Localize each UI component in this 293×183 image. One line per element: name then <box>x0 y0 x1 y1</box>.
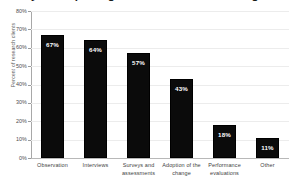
bar-value-label: 18% <box>214 131 235 138</box>
bar-value-label: 43% <box>171 85 192 92</box>
y-axis-tick-label: 0% <box>1 155 27 161</box>
chart-title: Ways of capturing the data when measurin… <box>14 0 279 3</box>
y-axis-tick-mark <box>28 121 31 122</box>
y-axis-tick-label: 60% <box>1 44 27 50</box>
bar-value-label: 11% <box>257 144 278 151</box>
bar-slot: 11% <box>246 11 289 158</box>
bar[interactable]: 11% <box>256 138 279 158</box>
bar-slot: 67% <box>31 11 74 158</box>
y-axis-tick-label: 30% <box>1 99 27 105</box>
y-axis-tick-mark <box>28 103 31 104</box>
y-axis-tick-label: 20% <box>1 118 27 124</box>
x-axis-category-labels: ObservationInterviewsSurveys and assessm… <box>31 162 289 183</box>
bar[interactable]: 67% <box>41 35 64 158</box>
y-axis-tick-mark <box>28 158 31 159</box>
y-axis-tick-mark <box>28 11 31 12</box>
bar-slot: 18% <box>203 11 246 158</box>
bar-value-label: 64% <box>85 46 106 53</box>
bar[interactable]: 18% <box>213 125 236 158</box>
bar-chart: Ways of capturing the data when measurin… <box>0 0 293 183</box>
bar-value-label: 67% <box>42 41 63 48</box>
y-axis-tick-mark <box>28 29 31 30</box>
plot-area: 67%64%57%43%18%11% <box>31 11 289 158</box>
bar[interactable]: 64% <box>84 40 107 158</box>
gridline <box>31 158 289 159</box>
y-axis-tick-label: 70% <box>1 26 27 32</box>
x-axis-label: Observation <box>31 162 74 170</box>
y-axis-tick-label: 80% <box>1 8 27 14</box>
y-axis-tick-label: 50% <box>1 63 27 69</box>
y-axis-tick-mark <box>28 48 31 49</box>
y-axis-tick-label: 40% <box>1 81 27 87</box>
bar-value-label: 57% <box>128 59 149 66</box>
y-axis-tick-mark <box>28 85 31 86</box>
x-axis-label: Surveys and assessments <box>117 162 160 177</box>
bar-slot: 57% <box>117 11 160 158</box>
x-axis-label: Other <box>246 162 289 170</box>
x-axis-label: Interviews <box>74 162 117 170</box>
y-axis-tick-labels: 80%70%60%50%40%30%20%10%0% <box>0 0 27 183</box>
bar[interactable]: 57% <box>127 53 150 158</box>
bar-slot: 64% <box>74 11 117 158</box>
x-axis-label: Performance evaluations <box>203 162 246 177</box>
bar-slot: 43% <box>160 11 203 158</box>
y-axis-tick-mark <box>28 140 31 141</box>
y-axis-tick-mark <box>28 66 31 67</box>
y-axis-tick-label: 10% <box>1 136 27 142</box>
bar[interactable]: 43% <box>170 79 193 158</box>
x-axis-label: Adoption of the change <box>160 162 203 177</box>
